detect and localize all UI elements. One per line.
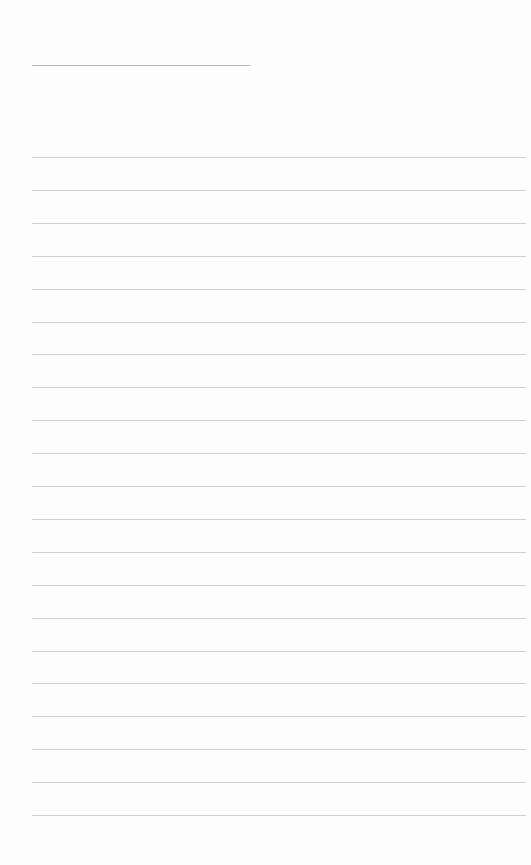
ruled-line bbox=[32, 223, 526, 224]
ruled-line bbox=[32, 256, 526, 257]
ruled-line bbox=[32, 749, 526, 750]
ruled-line bbox=[32, 782, 526, 783]
title-line bbox=[32, 65, 250, 66]
ruled-line bbox=[32, 716, 526, 717]
ruled-line bbox=[32, 190, 526, 191]
lined-paper-page bbox=[0, 0, 531, 865]
ruled-line bbox=[32, 157, 526, 158]
ruled-line bbox=[32, 354, 526, 355]
ruled-line bbox=[32, 651, 526, 652]
ruled-line bbox=[32, 420, 526, 421]
ruled-line bbox=[32, 289, 526, 290]
ruled-line bbox=[32, 322, 526, 323]
ruled-line bbox=[32, 519, 526, 520]
ruled-line bbox=[32, 453, 526, 454]
ruled-line bbox=[32, 815, 526, 816]
ruled-line bbox=[32, 387, 526, 388]
ruled-line bbox=[32, 683, 526, 684]
ruled-line bbox=[32, 552, 526, 553]
ruled-line bbox=[32, 585, 526, 586]
ruled-line bbox=[32, 618, 526, 619]
ruled-line bbox=[32, 486, 526, 487]
